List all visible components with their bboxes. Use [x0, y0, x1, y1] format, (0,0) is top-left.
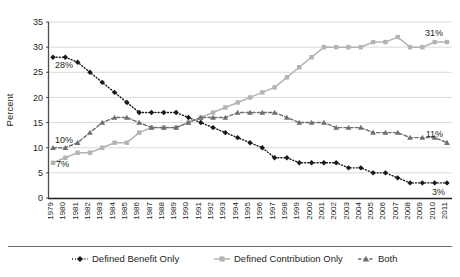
data-series-layer	[50, 35, 450, 186]
data-point	[322, 45, 326, 49]
data-point	[223, 130, 228, 135]
x-tick-1993: 1993	[218, 201, 227, 219]
chart-legend: Defined Benefit OnlyDefined Contribution…	[72, 253, 398, 264]
x-tick-1984: 1984	[108, 201, 117, 219]
x-tick-1981: 1981	[71, 201, 80, 219]
annotation-28pct: 28%	[55, 60, 73, 70]
y-tick-15: 15	[33, 118, 43, 128]
x-tick-1998: 1998	[280, 201, 289, 219]
x-tick-1989: 1989	[169, 201, 178, 219]
data-point	[383, 40, 387, 44]
data-point	[173, 110, 178, 115]
data-point	[309, 55, 313, 59]
y-tick-30: 30	[33, 42, 43, 52]
y-tick-35: 35	[33, 17, 43, 27]
series-line	[53, 57, 447, 183]
data-point	[297, 65, 301, 69]
data-point	[137, 130, 141, 134]
data-point	[309, 160, 314, 165]
data-point	[211, 110, 215, 114]
data-point	[272, 110, 278, 115]
legend-label: Both	[378, 253, 398, 264]
annotation-11pct: 11%	[426, 129, 443, 139]
data-point	[247, 140, 252, 145]
data-point	[284, 155, 289, 160]
y-axis-tick-labels: 05101520253035	[33, 17, 49, 203]
data-point	[334, 45, 338, 49]
data-point	[272, 85, 276, 89]
x-tick-2007: 2007	[391, 201, 400, 219]
data-point	[248, 95, 252, 99]
x-tick-1996: 1996	[255, 201, 264, 219]
x-tick-2004: 2004	[354, 201, 363, 219]
data-point	[395, 175, 400, 180]
data-point	[161, 110, 166, 115]
legend-item-defined-benefit-only[interactable]: Defined Benefit Only	[72, 253, 179, 264]
x-tick-2002: 2002	[329, 201, 338, 219]
chart-container: 05101520253035 1979198019811982198319841…	[0, 0, 460, 277]
x-tick-2009: 2009	[415, 201, 424, 219]
data-point	[432, 40, 436, 44]
annotation-31pct: 31%	[425, 28, 443, 38]
x-tick-2000: 2000	[305, 201, 314, 219]
x-tick-2001: 2001	[317, 201, 326, 219]
x-tick-2010: 2010	[428, 201, 437, 219]
data-point	[346, 45, 350, 49]
x-tick-2003: 2003	[342, 201, 351, 219]
series-defined-benefit-only	[50, 55, 449, 186]
x-tick-1987: 1987	[145, 201, 154, 219]
x-tick-1995: 1995	[243, 201, 252, 219]
data-point	[260, 145, 265, 150]
y-tick-5: 5	[38, 168, 43, 178]
data-point	[333, 160, 338, 165]
annotation-7pct: 7%	[56, 159, 69, 169]
data-point	[210, 125, 215, 130]
data-point	[371, 40, 375, 44]
x-tick-1986: 1986	[132, 201, 141, 219]
data-point	[432, 180, 437, 185]
data-point	[260, 90, 264, 94]
data-point	[50, 55, 55, 60]
x-tick-1985: 1985	[120, 201, 129, 219]
data-point	[408, 45, 412, 49]
data-point	[297, 160, 302, 165]
data-point	[186, 115, 191, 120]
data-point	[125, 140, 129, 144]
data-point	[198, 120, 203, 125]
annotation-3pct: 3%	[432, 187, 445, 197]
data-point	[51, 161, 55, 165]
x-tick-1979: 1979	[46, 201, 55, 219]
data-point	[370, 170, 375, 175]
x-tick-1982: 1982	[83, 201, 92, 219]
x-tick-1991: 1991	[194, 201, 203, 219]
data-point	[100, 146, 104, 150]
data-point	[420, 180, 425, 185]
x-tick-1990: 1990	[181, 201, 190, 219]
x-tick-1983: 1983	[95, 201, 104, 219]
x-axis-tick-labels: 1979198019811982198319841985198619871988…	[46, 201, 449, 219]
legend-marker-diamond-icon	[77, 256, 83, 262]
annotation-10pct: 10%	[55, 135, 73, 145]
data-point	[112, 140, 116, 144]
data-point	[75, 151, 79, 155]
x-tick-2006: 2006	[378, 201, 387, 219]
data-point	[235, 135, 240, 140]
y-tick-10: 10	[33, 143, 43, 153]
data-point	[149, 110, 154, 115]
x-tick-1997: 1997	[268, 201, 277, 219]
x-tick-2011: 2011	[440, 201, 449, 219]
y-tick-0: 0	[38, 193, 43, 203]
legend-marker-square-icon	[219, 256, 224, 261]
x-tick-2005: 2005	[366, 201, 375, 219]
y-tick-20: 20	[33, 93, 43, 103]
x-tick-1980: 1980	[58, 201, 67, 219]
data-point	[383, 170, 388, 175]
legend-item-defined-contribution-only[interactable]: Defined Contribution Only	[214, 253, 343, 264]
x-tick-1992: 1992	[206, 201, 215, 219]
legend-item-both[interactable]: Both	[358, 253, 398, 264]
y-axis-title: Percent	[4, 93, 15, 126]
legend-label: Defined Benefit Only	[92, 253, 179, 264]
data-point	[285, 75, 289, 79]
data-point	[445, 40, 449, 44]
data-point	[420, 45, 424, 49]
